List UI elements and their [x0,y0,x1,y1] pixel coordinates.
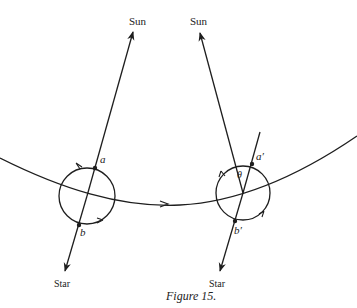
left-sun-label: Sun [129,15,147,27]
right-point-a [250,162,254,166]
left-point-a [93,166,97,170]
right-point-a-label: a′ [256,150,265,162]
angle-theta-label: θ [237,169,242,180]
left-point-b-label: b [80,226,86,238]
right-circle-arrow-bottom-icon [259,211,264,217]
left-point-a-label: a [100,153,106,165]
orbit-direction-arrow-icon [160,201,168,207]
figure-15-diagram: Sun Star a b Sun Star a′ b′ θ Figure 15. [0,0,357,308]
right-point-b [233,219,237,223]
right-point-b-label: b′ [234,224,243,236]
right-sun-label: Sun [190,15,208,27]
right-star-label: Star [209,278,226,289]
parallax-diagram: Sun Star a b Sun Star a′ b′ θ Figure 15. [0,0,357,308]
left-sun-ray [87,32,133,196]
left-star-label: Star [54,278,71,289]
figure-caption: Figure 15. [165,289,216,303]
orbit-curve [0,136,357,205]
